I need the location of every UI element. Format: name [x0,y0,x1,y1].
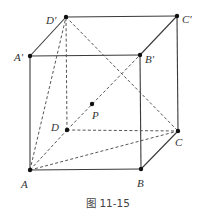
label-P: P [91,109,99,121]
hidden-edge-D-C [67,130,178,131]
label-D-prime: D′ [45,14,57,26]
vertex-point-A [28,168,32,172]
vertex-point-P [90,102,94,106]
vertex-point-C [176,129,180,133]
cube-diagram: A B C D A′ B′ C′ D′ P 图 11-15 [0,0,203,219]
vertex-point-B1 [138,53,142,57]
figure-caption: 图 11-15 [86,197,130,209]
label-B-prime: B′ [145,53,155,65]
hidden-edge-D-B1 [67,55,140,130]
dashed-edges [30,17,178,170]
visible-edge-B1-C1 [140,16,177,55]
label-C: C [175,136,183,148]
vertex-point-D [65,128,69,132]
label-C-prime: C′ [182,13,192,25]
vertex-point-C1 [175,14,179,18]
label-D: D [50,121,59,133]
visible-edge-A-B [30,169,141,170]
vertex-point-B [139,167,143,171]
visible-edge-C1-D1 [66,16,177,17]
vertex-point-A1 [28,54,32,58]
label-B: B [137,177,144,189]
vertex-points [28,14,180,172]
solid-edges [30,16,178,170]
visible-edge-B-B1 [140,55,141,169]
visible-edge-B-C [141,131,178,169]
visible-edge-A1-B1 [30,55,140,56]
hidden-edge-A-D1 [30,17,66,170]
hidden-edge-D-D1 [66,17,67,130]
hidden-edge-A-D [30,130,67,170]
label-A-prime: A′ [13,51,24,63]
visible-edge-C-C1 [177,16,178,131]
hidden-edge-A-C [30,131,178,170]
label-A: A [20,178,28,190]
vertex-point-D1 [64,15,68,19]
